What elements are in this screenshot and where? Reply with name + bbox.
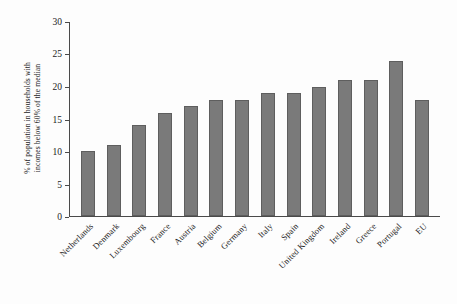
bar-cell (126, 22, 152, 216)
x-tick-label: EU (414, 221, 429, 236)
x-axis-category-labels: NetherlandsDenmarkLuxembourgFranceAustri… (69, 219, 440, 303)
category-cell: Netherlands (75, 219, 101, 303)
bar (389, 61, 403, 216)
category-cell: Luxembourg (126, 219, 152, 303)
x-axis-line (69, 216, 440, 217)
bar-chart: % of population in households with incom… (0, 0, 457, 304)
x-tick-label: France (148, 221, 172, 245)
bar (261, 93, 275, 216)
bar-cell (75, 22, 101, 216)
category-cell: Greece (358, 219, 384, 303)
bar-cell (101, 22, 127, 216)
bar (364, 80, 378, 216)
bar (209, 100, 223, 216)
bar (287, 93, 301, 216)
bar-cell (409, 22, 435, 216)
bar (158, 113, 172, 216)
y-tick-label: 10 (53, 147, 63, 157)
category-cell: Belgium (204, 219, 230, 303)
bar (312, 87, 326, 216)
bar-cell (204, 22, 230, 216)
category-cell: United Kingdom (306, 219, 332, 303)
category-cell: Ireland (332, 219, 358, 303)
bar (235, 100, 249, 216)
y-tick-label: 25 (53, 49, 63, 59)
bar-series (69, 22, 440, 216)
bar (132, 125, 146, 216)
bar-cell (255, 22, 281, 216)
y-tick-label: 0 (57, 212, 62, 222)
category-cell: Italy (255, 219, 281, 303)
bar-cell (358, 22, 384, 216)
bar-cell (229, 22, 255, 216)
category-cell: EU (409, 219, 435, 303)
y-axis-title-line-1: % of population in households with (23, 62, 33, 174)
category-cell: France (152, 219, 178, 303)
bar-cell (332, 22, 358, 216)
y-axis-title: % of population in households with incom… (18, 20, 48, 216)
bar (415, 100, 429, 216)
category-cell: Austria (178, 219, 204, 303)
y-tick-label: 30 (53, 17, 63, 27)
bar (81, 151, 95, 216)
x-tick-label: Italy (256, 221, 275, 240)
bar-cell (306, 22, 332, 216)
bar (338, 80, 352, 216)
y-tick-mark (65, 217, 69, 218)
x-tick-label: Netherlands (57, 221, 95, 259)
category-cell: Portugal (384, 219, 410, 303)
y-tick-label: 20 (53, 82, 63, 92)
category-cell: Denmark (101, 219, 127, 303)
bar (184, 106, 198, 216)
plot-area: 051015202530 (69, 22, 440, 217)
bar-cell (281, 22, 307, 216)
y-tick-label: 15 (53, 115, 63, 125)
category-cell: Germany (229, 219, 255, 303)
bar-cell (178, 22, 204, 216)
y-axis-title-line-2: incomes below 60% of the median (33, 62, 43, 174)
x-tick-label: Spain (279, 221, 300, 242)
bar-cell (384, 22, 410, 216)
y-tick-label: 5 (57, 180, 62, 190)
bar-cell (152, 22, 178, 216)
bar (107, 145, 121, 216)
